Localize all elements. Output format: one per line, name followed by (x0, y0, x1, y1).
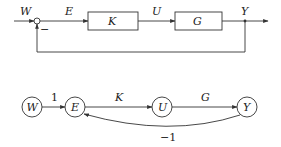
edge-u-y-label: G (201, 91, 210, 104)
control-diagrams: W − E K U G Y 1 K G −1 (0, 0, 281, 147)
error-label-e: E (64, 5, 73, 18)
signal-flow-graph: 1 K G −1 W E U Y (22, 91, 257, 144)
block-g-label: G (193, 15, 202, 28)
node-e: E (65, 97, 85, 117)
output-label-y: Y (241, 5, 250, 18)
input-label-w: W (20, 5, 33, 18)
node-y: Y (237, 97, 257, 117)
node-w-label: W (27, 101, 40, 114)
edge-y-e-label: −1 (160, 131, 176, 144)
block-diagram: W − E K U G Y (14, 5, 268, 52)
node-u-label: U (158, 101, 168, 114)
edge-e-u-label: K (114, 91, 124, 104)
edge-w-e-label: 1 (51, 91, 58, 104)
node-u: U (152, 97, 172, 117)
control-label-u: U (152, 5, 162, 18)
node-w: W (22, 97, 42, 117)
node-e-label: E (70, 101, 79, 114)
block-k-label: K (107, 15, 117, 28)
minus-sign: − (40, 23, 49, 36)
